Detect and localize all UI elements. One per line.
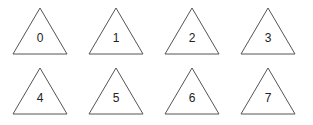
triangle-label: 2 (164, 31, 220, 45)
triangle-label: 4 (12, 91, 68, 105)
triangle-0: 0 (12, 7, 68, 55)
triangle-grid: 0 1 2 3 4 5 6 7 (0, 0, 313, 125)
triangle-label: 6 (164, 91, 220, 105)
triangle-2: 2 (164, 7, 220, 55)
triangle-3: 3 (240, 7, 296, 55)
triangle-5: 5 (88, 67, 144, 115)
triangle-label: 0 (12, 31, 68, 45)
triangle-label: 5 (88, 91, 144, 105)
triangle-label: 3 (240, 31, 296, 45)
triangle-label: 7 (240, 91, 296, 105)
triangle-7: 7 (240, 67, 296, 115)
triangle-label: 1 (88, 31, 144, 45)
triangle-4: 4 (12, 67, 68, 115)
triangle-1: 1 (88, 7, 144, 55)
triangle-6: 6 (164, 67, 220, 115)
